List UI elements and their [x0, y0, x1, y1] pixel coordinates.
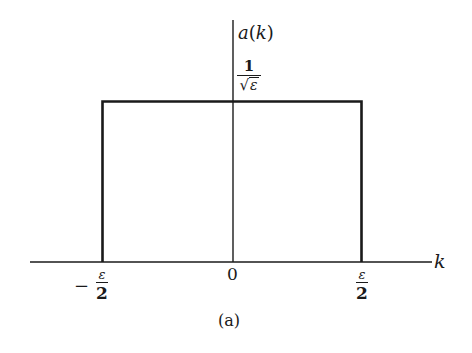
height-label-denominator: √ε: [239, 77, 258, 94]
sqrt-symbol: √: [239, 77, 249, 94]
sqrt-radicand: ε: [249, 77, 259, 93]
y-axis-label: a(k): [238, 22, 274, 43]
tick-pos-numerator: ε: [359, 268, 366, 281]
box-function-curve: [103, 102, 362, 263]
y-axis-label-close: ): [267, 22, 274, 43]
height-label-numerator: 1: [244, 58, 254, 74]
y-axis-label-var: k: [256, 22, 267, 43]
tick-pos-half-eps: ε 2: [354, 268, 370, 303]
tick-neg-sign: −: [74, 275, 89, 296]
y-axis-label-func: a: [238, 22, 249, 43]
tick-neg-half-eps: ε 2: [94, 268, 110, 303]
tick-neg-numerator: ε: [99, 268, 106, 281]
figure-caption: (a): [218, 311, 240, 330]
y-axis-label-open: (: [249, 22, 256, 43]
height-label: 1 √ε: [237, 58, 261, 94]
tick-neg-denominator: 2: [96, 284, 108, 303]
tick-pos-denominator: 2: [356, 284, 368, 303]
tick-zero: 0: [227, 264, 238, 284]
x-axis-label: k: [434, 250, 446, 272]
box-function-plot: [0, 0, 472, 353]
